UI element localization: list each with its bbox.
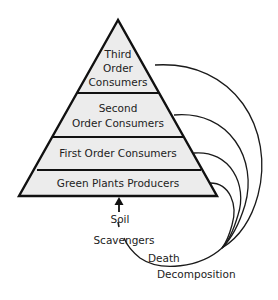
label-third-order-line2: Order (103, 62, 134, 74)
label-producers: Green Plants Producers (57, 177, 179, 189)
label-first-order: First Order Consumers (59, 147, 177, 159)
ecological-pyramid-diagram: Third Order Consumers Second Order Consu… (0, 0, 278, 300)
label-second-order-line1: Second (99, 102, 138, 114)
label-scavengers: Scavengers (93, 234, 154, 246)
arrow-up-icon (115, 197, 124, 205)
label-decomposition: Decomposition (157, 268, 236, 280)
label-third-order-line3: Consumers (88, 76, 147, 88)
label-third-order-line1: Third (104, 48, 132, 60)
label-soil: Soil (111, 213, 130, 225)
label-death: Death (148, 252, 180, 264)
label-second-order-line2: Order Consumers (72, 117, 164, 129)
